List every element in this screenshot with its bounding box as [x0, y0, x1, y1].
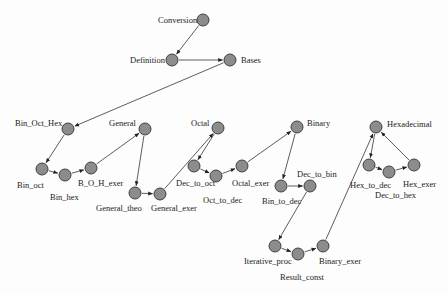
edge-bin_oct_hex-to-bin_oct [46, 135, 64, 163]
node-label: Binary [307, 118, 331, 128]
node-label: Iterative_proc [244, 256, 292, 266]
node-label: Bin_Oct_Hex [15, 118, 63, 128]
node-dec-to-oct[interactable]: Dec_to_oct [176, 160, 216, 188]
edge-general-to-general_theo [136, 136, 144, 186]
node-b-o-h-exer[interactable]: B_O_H_exer [78, 162, 123, 188]
edge-hex_to_dec-to-dec_to_hex [376, 167, 382, 169]
node-label: General_theo [96, 203, 142, 213]
node-label: Dec_to_hex [375, 190, 417, 200]
node-general-theo[interactable]: General_theo [96, 187, 142, 213]
edge-bases-to-bin_oct_hex [75, 63, 224, 126]
node-circle-icon[interactable] [363, 159, 375, 171]
node-circle-icon[interactable] [304, 180, 316, 192]
node-circle-icon[interactable] [370, 121, 382, 133]
node-label: Hex_exer [403, 179, 436, 189]
edge-conversion-to-definition [177, 26, 199, 55]
edge-dec_to_hex-to-hex_exer [396, 167, 407, 170]
node-circle-icon[interactable] [269, 240, 281, 252]
node-circle-icon[interactable] [275, 180, 287, 192]
node-label: Dec_to_oct [176, 178, 216, 188]
node-circle-icon[interactable] [85, 162, 97, 174]
edge-bin_hex-to-b_o_h_exer [72, 170, 84, 173]
node-conversion[interactable]: Conversion [158, 14, 209, 26]
node-general[interactable]: General [109, 118, 151, 135]
node-label: Octal [191, 118, 210, 128]
edge-dec_to_oct-to-oct_to_dec [200, 169, 209, 173]
node-circle-icon[interactable] [317, 240, 329, 252]
nodes-layer: ConversionDefinitionBasesBin_Oct_HexBin_… [15, 14, 436, 282]
concept-graph: ConversionDefinitionBasesBin_Oct_HexBin_… [0, 0, 448, 294]
edge-hex_exer-to-hexadecimal [381, 132, 409, 160]
node-bin-oct-hex[interactable]: Bin_Oct_Hex [15, 118, 74, 135]
node-dec-to-bin[interactable]: Dec_to_bin [297, 169, 337, 192]
node-label: Result_const [280, 272, 325, 282]
node-bin-oct[interactable]: Bin_oct [17, 163, 48, 190]
edge-iterative_proc-to-result_const [282, 248, 291, 251]
node-label: Hexadecimal [387, 119, 432, 129]
node-circle-icon[interactable] [292, 248, 304, 260]
node-label: Bases [241, 55, 261, 65]
node-circle-icon[interactable] [188, 160, 200, 172]
edge-octal_exer-to-binary [248, 131, 291, 162]
node-circle-icon[interactable] [291, 121, 303, 133]
node-circle-icon[interactable] [36, 163, 48, 175]
node-hex-exer[interactable]: Hex_exer [403, 159, 436, 189]
node-label: Bin_hex [50, 192, 80, 202]
node-label: Binary_exer [319, 256, 361, 266]
node-label: Conversion [158, 15, 198, 25]
node-label: Definition [130, 55, 166, 65]
node-circle-icon[interactable] [383, 166, 395, 178]
node-circle-icon[interactable] [408, 159, 420, 171]
node-circle-icon[interactable] [59, 169, 71, 181]
edge-oct_to_dec-to-octal_exer [223, 169, 235, 174]
node-definition[interactable]: Definition [130, 54, 178, 66]
node-circle-icon[interactable] [236, 160, 248, 172]
node-circle-icon[interactable] [224, 54, 236, 66]
node-circle-icon[interactable] [166, 54, 178, 66]
node-general-exer[interactable]: General_exer [151, 188, 197, 213]
node-iterative-proc[interactable]: Iterative_proc [244, 240, 292, 266]
edge-bin_oct-to-bin_hex [49, 171, 58, 173]
edge-binary-to-bin_to_dec [283, 134, 295, 179]
node-label: Octal_exer [232, 178, 269, 188]
node-circle-icon[interactable] [210, 170, 222, 182]
node-circle-icon[interactable] [154, 188, 166, 200]
node-circle-icon[interactable] [139, 123, 151, 135]
node-hexadecimal[interactable]: Hexadecimal [370, 119, 432, 133]
node-label: General [109, 118, 137, 128]
node-binary[interactable]: Binary [291, 118, 331, 133]
node-octal[interactable]: Octal [191, 118, 224, 134]
edge-octal-to-dec_to_oct [198, 134, 214, 160]
graph-svg: ConversionDefinitionBasesBin_Oct_HexBin_… [0, 0, 448, 294]
node-circle-icon[interactable] [197, 14, 209, 26]
node-label: Dec_to_bin [297, 169, 337, 179]
node-label: Oct_to_dec [203, 195, 242, 205]
edge-b_o_h_exer-to-general [97, 133, 139, 164]
node-label: Bin_oct [17, 180, 45, 190]
node-label: Bin_to_dec [262, 196, 301, 206]
node-circle-icon[interactable] [212, 122, 224, 134]
node-label: General_exer [151, 203, 197, 213]
node-circle-icon[interactable] [62, 123, 74, 135]
node-circle-icon[interactable] [129, 187, 141, 199]
node-label: B_O_H_exer [78, 178, 123, 188]
node-binary-exer[interactable]: Binary_exer [317, 240, 361, 266]
node-bases[interactable]: Bases [224, 54, 261, 66]
node-bin-hex[interactable]: Bin_hex [50, 169, 80, 202]
node-octal-exer[interactable]: Octal_exer [232, 160, 269, 188]
node-label: Hex_to_dec [350, 180, 391, 190]
edge-result_const-to-binary_exer [305, 248, 316, 252]
